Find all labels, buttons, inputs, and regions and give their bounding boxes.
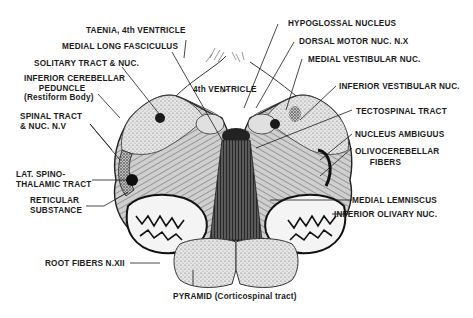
label-reticular-substance: RETICULAR SUBSTANCE — [30, 196, 82, 216]
label-inferior-vestibular-nuc: INFERIOR VESTIBULAR NUC. — [339, 82, 460, 91]
label-solitary-tract-nuc: SOLITARY TRACT & NUC. — [34, 59, 139, 68]
label-inferior-olivary-nuc: INFERIOR OLIVARY NUC. — [334, 210, 437, 219]
label-taenia-4th-ventricle: TAENIA, 4th VENTRICLE — [86, 26, 186, 35]
label-tectospinal-tract: TECTOSPINAL TRACT — [356, 107, 447, 116]
label-lat-spinothalamic-tract: LAT. SPINO- THALAMIC TRACT — [16, 170, 92, 190]
label-nucleus-ambiguus: NUCLEUS AMBIGUUS — [355, 130, 444, 139]
label-4th-ventricle: 4th VENTRICLE — [193, 85, 257, 94]
label-pyramid-corticospinal: PYRAMID (Corticospinal tract) — [173, 292, 297, 301]
label-medial-long-fasciculus: MEDIAL LONG FASCICULUS — [62, 42, 178, 51]
label-spinal-tract-nuc-v: SPINAL TRACT & NUC. N.V — [20, 112, 82, 132]
label-olivocerebellar-fibers: OLIVOCEREBELLAR FIBERS — [355, 146, 439, 168]
medulla-diagram: TAENIA, 4th VENTRICLE MEDIAL LONG FASCIC… — [0, 0, 473, 318]
label-medial-lemniscus: MEDIAL LEMNISCUS — [352, 196, 437, 205]
label-medial-vestibular-nuc: MEDIAL VESTIBULAR NUC. — [308, 55, 421, 64]
label-root-fibers-n-xii: ROOT FIBERS N.XII — [45, 259, 125, 268]
label-inferior-cerebellar-peduncle: INFERIOR CEREBELLAR PEDUNCLE (Restiform … — [24, 74, 125, 103]
label-dorsal-motor-nuc-n-x: DORSAL MOTOR NUC. N.X — [299, 37, 408, 46]
label-hypoglossal-nucleus: HYPOGLOSSAL NUCLEUS — [288, 19, 396, 28]
